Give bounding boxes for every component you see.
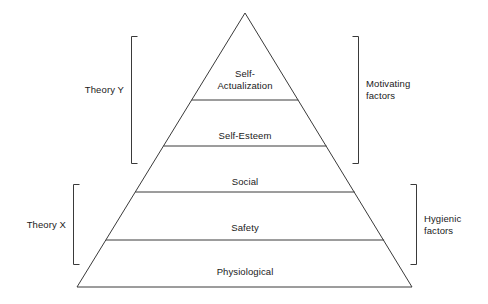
bracket-theory-y <box>132 37 138 164</box>
bracket-theory-x <box>74 185 80 265</box>
bracket-motivating-factors <box>353 37 359 164</box>
bracket-hygienic-factors <box>411 185 417 265</box>
pyramid-diagram: Self- Actualization Self-Esteem Social S… <box>0 0 488 304</box>
pyramid-outline <box>77 13 412 287</box>
pyramid-graphic <box>0 0 488 304</box>
